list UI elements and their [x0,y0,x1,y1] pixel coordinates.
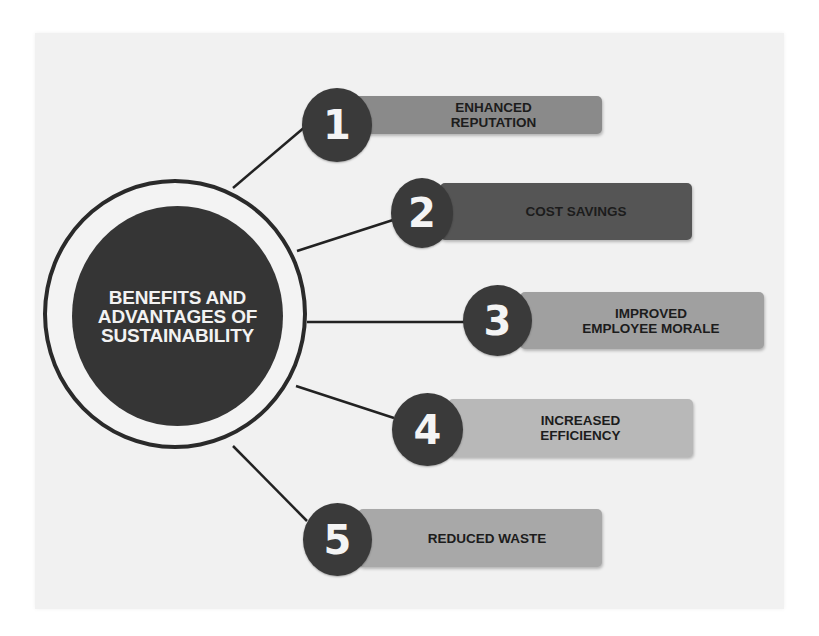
number-badge-1: 1 [302,88,372,162]
connector-2 [297,220,393,251]
badge-number-1: 1 [323,105,351,145]
badge-number-4: 4 [414,410,442,450]
badge-number-3: 3 [484,301,512,341]
badge-number-2: 2 [408,193,436,233]
benefit-label-2: COST SAVINGS [525,204,626,219]
hub-circle: BENEFITS AND ADVANTAGES OF SUSTAINABILIT… [72,206,283,426]
benefit-bar-3: IMPROVED EMPLOYEE MORALE [520,292,764,349]
benefit-label-4: INCREASED EFFICIENCY [540,413,620,443]
connector-1 [233,126,306,188]
benefit-label-5: REDUCED WASTE [428,531,547,546]
benefit-bar-2: COST SAVINGS [440,183,692,240]
benefit-bar-4: INCREASED EFFICIENCY [448,399,693,457]
number-badge-2: 2 [391,178,453,248]
number-badge-4: 4 [392,393,463,466]
benefit-label-3: IMPROVED EMPLOYEE MORALE [582,306,719,336]
number-badge-5: 5 [303,503,372,576]
badge-number-5: 5 [324,520,352,560]
number-badge-3: 3 [463,285,532,356]
connector-5 [233,446,307,521]
benefit-bar-5: REDUCED WASTE [358,509,602,567]
hub-title: BENEFITS AND ADVANTAGES OF SUSTAINABILIT… [83,288,273,345]
connector-4 [296,386,394,418]
benefit-bar-1: ENHANCED REPUTATION [355,96,602,134]
benefit-label-1: ENHANCED REPUTATION [451,100,537,130]
